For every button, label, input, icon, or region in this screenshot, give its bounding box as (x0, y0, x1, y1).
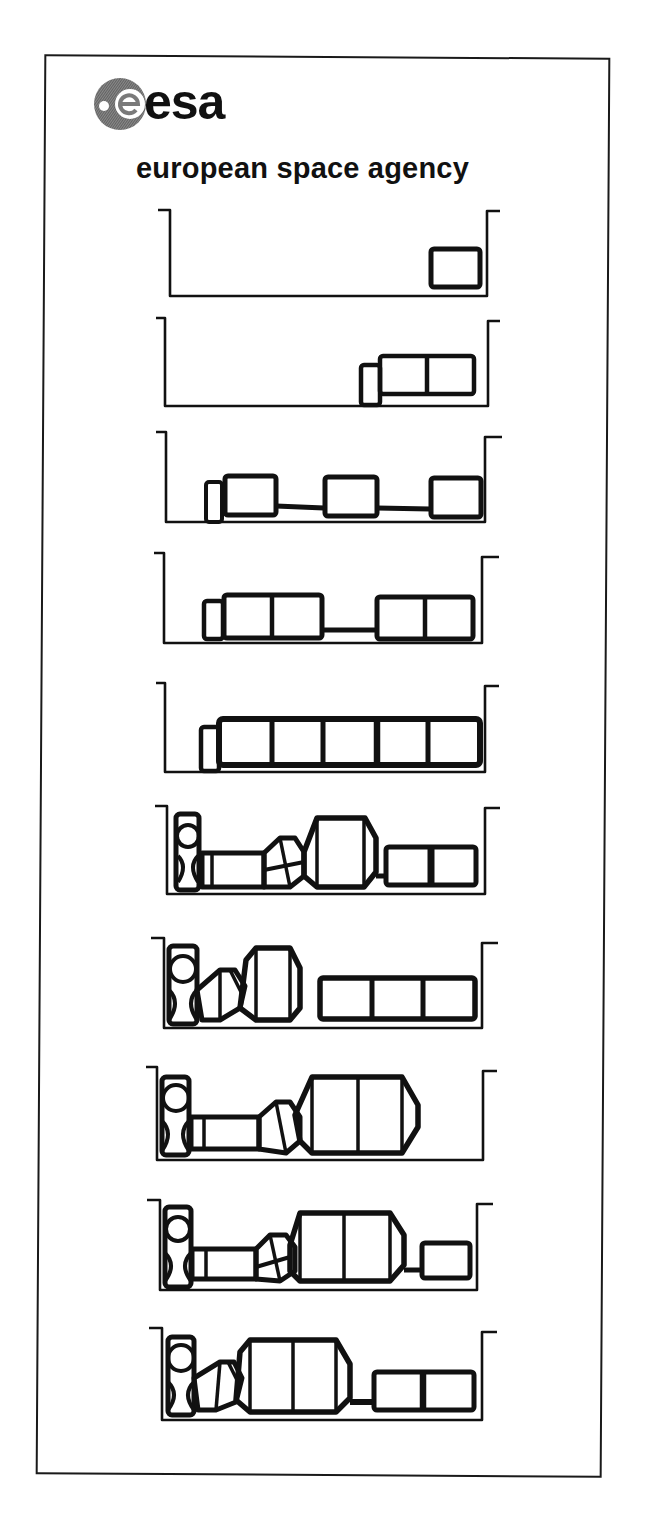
agency-name-heading: european space agency (136, 152, 469, 185)
assembly-stage-10 (140, 1312, 520, 1442)
assembly-stage-9 (140, 1185, 520, 1315)
assembly-stage-2 (140, 310, 520, 440)
assembly-stage-5 (140, 665, 520, 795)
assembly-stage-4 (140, 545, 520, 675)
assembly-stage-8 (140, 1055, 520, 1185)
esa-wordmark: esa (144, 72, 224, 132)
assembly-stage-7 (140, 928, 520, 1058)
esa-logo: esa (92, 72, 262, 136)
assembly-stage-6 (140, 790, 520, 920)
assembly-stage-3 (140, 426, 520, 556)
esa-globe-logo-icon (92, 76, 148, 132)
